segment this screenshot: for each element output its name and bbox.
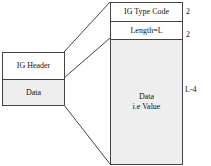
value-size: L-4 [185, 85, 197, 94]
type-code-cell: IG Type Code [111, 3, 182, 21]
length-label: Length=L [130, 26, 162, 36]
data-label: Data [26, 88, 41, 98]
ig-left-block: IG Header Data [2, 52, 65, 106]
length-cell: Length=L [111, 21, 182, 39]
ig-header-label: IG Header [17, 61, 51, 71]
type-code-label: IG Type Code [124, 7, 169, 17]
ig-header-cell: IG Header [3, 53, 64, 79]
data-cell: Data [3, 79, 64, 105]
value-label-line2: i.e Value [133, 102, 161, 112]
value-label-line1: Data [139, 92, 154, 102]
length-size: 2 [186, 30, 190, 39]
value-cell: Data i.e Value [111, 39, 182, 164]
type-code-size: 2 [186, 7, 190, 16]
ig-right-block: IG Type Code Length=L Data i.e Value [110, 2, 183, 165]
